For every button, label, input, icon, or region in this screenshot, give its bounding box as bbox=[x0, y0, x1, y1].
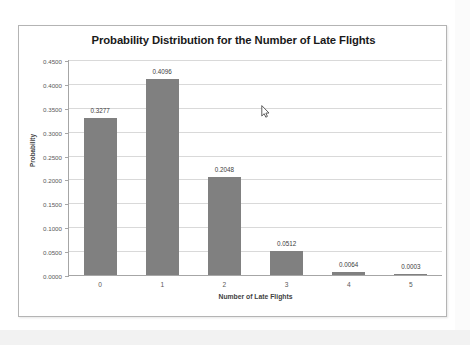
bar[interactable] bbox=[394, 274, 427, 275]
gridline: 0.3000 bbox=[69, 132, 442, 133]
gridline: 0.1000 bbox=[69, 227, 442, 228]
bar-value-label: 0.3277 bbox=[90, 107, 109, 114]
y-axis-tick bbox=[65, 61, 69, 62]
gridline: 0.0000 bbox=[69, 275, 442, 276]
gridline: 0.2500 bbox=[69, 156, 442, 157]
chart-title: Probability Distribution for the Number … bbox=[19, 34, 448, 46]
y-tick-label: 0.4000 bbox=[43, 81, 62, 88]
bar-value-label: 0.4096 bbox=[153, 68, 172, 75]
y-tick-label: 0.4500 bbox=[43, 58, 62, 65]
y-axis-title: Probability bbox=[29, 134, 36, 167]
y-axis-tick bbox=[65, 228, 69, 229]
y-axis-tick bbox=[65, 133, 69, 134]
bar[interactable] bbox=[270, 251, 303, 275]
plot-area: 0.45000.40000.35000.30000.25000.20000.15… bbox=[68, 60, 442, 276]
page-edge-right bbox=[455, 0, 470, 330]
y-tick-label: 0.2500 bbox=[43, 153, 62, 160]
x-tick-label: 0 bbox=[98, 281, 102, 288]
y-tick-label: 0.0500 bbox=[43, 249, 62, 256]
gridline: 0.0500 bbox=[69, 251, 442, 252]
bar[interactable] bbox=[84, 118, 117, 275]
y-axis-tick bbox=[65, 252, 69, 253]
gridline: 0.1500 bbox=[69, 203, 442, 204]
bar-value-label: 0.0003 bbox=[401, 263, 420, 270]
bar[interactable] bbox=[332, 272, 365, 275]
y-tick-label: 0.1500 bbox=[43, 201, 62, 208]
y-axis-tick bbox=[65, 157, 69, 158]
x-tick-label: 1 bbox=[160, 281, 164, 288]
bar[interactable] bbox=[208, 177, 241, 275]
y-tick-label: 0.0000 bbox=[43, 273, 62, 280]
bar-value-label: 0.0512 bbox=[277, 240, 296, 247]
gridline: 0.3500 bbox=[69, 108, 442, 109]
x-tick-label: 2 bbox=[223, 281, 227, 288]
chart-container: Probability Distribution for the Number … bbox=[18, 25, 447, 317]
y-tick-label: 0.3500 bbox=[43, 105, 62, 112]
y-axis-tick bbox=[65, 276, 69, 277]
bar-value-label: 0.2048 bbox=[215, 166, 234, 173]
bar[interactable] bbox=[146, 79, 179, 275]
y-tick-label: 0.3000 bbox=[43, 129, 62, 136]
x-axis-title: Number of Late Flights bbox=[69, 293, 442, 300]
x-tick-label: 3 bbox=[285, 281, 289, 288]
y-axis-tick bbox=[65, 204, 69, 205]
x-tick-label: 4 bbox=[347, 281, 351, 288]
y-axis-tick bbox=[65, 85, 69, 86]
gridline: 0.2000 bbox=[69, 179, 442, 180]
y-axis-tick bbox=[65, 180, 69, 181]
y-tick-label: 0.1000 bbox=[43, 225, 62, 232]
x-tick-label: 5 bbox=[409, 281, 413, 288]
gridline: 0.4000 bbox=[69, 84, 442, 85]
bar-value-label: 0.0064 bbox=[339, 261, 358, 268]
page-edge-bottom bbox=[0, 330, 470, 345]
y-axis-tick bbox=[65, 109, 69, 110]
gridline: 0.4500 bbox=[69, 60, 442, 61]
y-tick-label: 0.2000 bbox=[43, 177, 62, 184]
